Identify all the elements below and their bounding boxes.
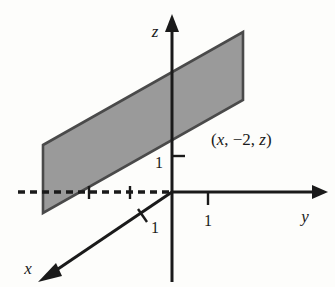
point-label-minus: − — [233, 130, 243, 149]
plane-y-equals-minus-2 — [43, 32, 243, 213]
z-axis-arrow-icon — [165, 14, 179, 32]
point-label-close: ) — [266, 130, 272, 149]
x-axis-arrow-icon — [38, 263, 62, 282]
point-label-comma1: , — [224, 130, 233, 149]
coordinate-figure: z y x 1 1 1 (x, −2, z) — [0, 0, 335, 287]
z-axis-label: z — [151, 22, 159, 41]
point-label-comma2: , — [251, 130, 260, 149]
x-tick-label-1: 1 — [151, 219, 159, 236]
point-label-two: 2 — [242, 130, 251, 149]
figure-container: z y x 1 1 1 (x, −2, z) — [0, 0, 335, 287]
plane-point-label: (x, −2, z) — [211, 130, 272, 149]
y-tick-label-1: 1 — [204, 212, 212, 229]
x-axis-label: x — [23, 259, 32, 278]
z-tick-label-1: 1 — [155, 154, 163, 171]
y-axis-label: y — [299, 207, 309, 226]
y-axis-arrow-icon — [312, 185, 328, 199]
